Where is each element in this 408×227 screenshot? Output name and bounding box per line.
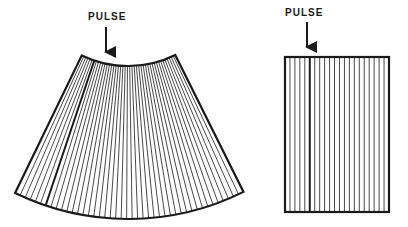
sector-scan-line: [99, 65, 116, 217]
sector-scan-line: [132, 66, 138, 219]
sector-scan-line: [141, 65, 160, 217]
sector-scan-line: [130, 66, 132, 219]
sector-scan-line: [20, 56, 84, 195]
sector-scan-lines: [15, 55, 243, 219]
sector-scan-line: [154, 63, 192, 211]
scan-format-diagram: [0, 0, 408, 227]
sector-scan-line: [35, 59, 90, 202]
sector-scan-line: [171, 57, 233, 197]
linear-outline: [285, 57, 389, 212]
sector-scan-line: [83, 64, 110, 215]
sector-scan-line: [165, 59, 218, 202]
linear-scan-lines: [290, 57, 384, 212]
sector-scan-line: [40, 60, 92, 204]
sector-scan-line: [173, 56, 238, 194]
sector-scan-line: [127, 66, 128, 219]
